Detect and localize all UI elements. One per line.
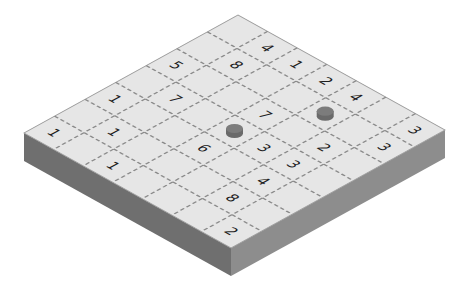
isometric-puzzle-board: 412438357273316418112	[0, 0, 467, 289]
puzzle-board-scene: 412438357273316418112	[0, 0, 467, 289]
peg-2[interactable]	[226, 124, 243, 138]
peg-1[interactable]	[317, 107, 334, 121]
